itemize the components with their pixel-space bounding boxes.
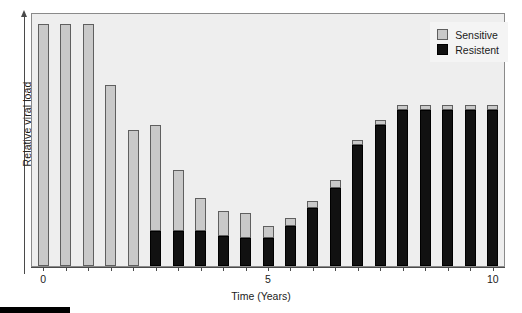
x-tick [246,267,247,271]
bar-segment-resistent [263,238,274,266]
bar-segment-sensitive [218,211,229,236]
legend-swatch-sensitive [437,29,448,40]
bar-segment-sensitive [173,170,184,230]
bar-segment-sensitive [442,105,453,110]
legend-label-sensitive: Sensitive [455,29,498,41]
bar-segment-resistent [218,236,229,266]
x-tick [425,267,426,271]
bar-segment-sensitive [105,85,116,266]
bar-segment-sensitive [240,213,251,238]
x-tick-label-0: 0 [40,273,46,285]
x-tick [403,267,404,271]
bar-segment-sensitive [465,105,476,110]
bar-year-4 [218,211,229,266]
chart-figure: Relative viral load 0510 Time (Years) Se… [0,0,522,313]
bar-year-6.5 [330,180,341,266]
bar-segment-resistent [195,231,206,266]
bar-segment-sensitive [195,198,206,231]
x-tick [313,267,314,271]
bar-segment-sensitive [420,105,431,110]
bar-segment-sensitive [128,130,139,266]
legend-item-resistent: Resistent [437,42,499,57]
bar-segment-sensitive [83,24,94,266]
bar-year-6 [307,200,318,266]
x-axis-label: Time (Years) [0,290,522,302]
x-tick [493,267,494,271]
bar-year-7.5 [375,120,386,266]
bar-year-1.5 [105,85,116,266]
x-tick-label-5: 5 [265,273,271,285]
x-tick [133,267,134,271]
bar-segment-sensitive [375,120,386,125]
x-tick [88,267,89,271]
x-tick [43,267,44,271]
bar-segment-resistent [352,145,363,266]
x-tick [201,267,202,271]
bar-segment-sensitive [285,218,296,226]
bar-year-5.5 [285,218,296,266]
bar-year-2 [128,130,139,266]
bar-year-0 [38,24,49,266]
bar-segment-sensitive [38,24,49,266]
bar-segment-resistent [375,125,386,266]
figure-caption-strip [0,306,522,313]
x-tick [223,267,224,271]
x-tick [178,267,179,271]
bar-year-7 [352,140,363,266]
x-tick [66,267,67,271]
x-tick [380,267,381,271]
bar-segment-sensitive [307,201,318,209]
x-tick [156,267,157,271]
bar-segment-resistent [285,226,296,266]
legend-item-sensitive: Sensitive [437,27,499,42]
x-tick [358,267,359,271]
bar-segment-sensitive [150,125,161,231]
x-tick [470,267,471,271]
bar-segment-resistent [307,208,318,266]
x-tick [448,267,449,271]
bar-segment-resistent [173,231,184,266]
x-tick [268,267,269,271]
bar-year-3.5 [195,198,206,266]
x-tick [290,267,291,271]
caption-rule [0,307,70,313]
bar-segment-sensitive [330,180,341,188]
x-tick-label-10: 10 [487,273,499,285]
bar-segment-sensitive [397,105,408,110]
bar-year-8.5 [420,105,431,266]
legend-label-resistent: Resistent [455,44,499,56]
bar-segment-sensitive [352,140,363,145]
bar-year-9.5 [465,105,476,266]
bar-year-10 [487,105,498,266]
legend-swatch-resistent [437,44,448,55]
bar-year-3 [173,170,184,266]
bar-segment-sensitive [487,105,498,110]
bar-year-1 [83,24,94,266]
x-tick [111,267,112,271]
bar-year-0.5 [60,24,71,266]
bar-year-8 [397,105,408,266]
bar-year-4.5 [240,213,251,266]
bar-segment-resistent [330,188,341,266]
chart-legend: Sensitive Resistent [430,22,508,62]
bar-segment-resistent [150,231,161,266]
bar-segment-resistent [240,238,251,266]
bar-segment-resistent [442,110,453,266]
bar-segment-resistent [465,110,476,266]
bar-segment-resistent [397,110,408,266]
bar-year-9 [442,105,453,266]
bar-segment-resistent [420,110,431,266]
bar-segment-sensitive [263,226,274,239]
x-tick [335,267,336,271]
bar-year-5 [263,226,274,266]
bar-year-2.5 [150,125,161,266]
bar-segment-resistent [487,110,498,266]
bar-segment-sensitive [60,24,71,266]
